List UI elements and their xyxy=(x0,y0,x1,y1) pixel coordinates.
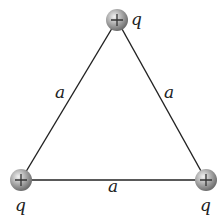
side-label-right: a xyxy=(164,82,174,102)
charge-bottom-right xyxy=(195,169,217,191)
diagram-canvas: q q q a a a xyxy=(0,0,222,217)
side-label-bottom: a xyxy=(108,176,118,196)
triangle-sides xyxy=(21,20,206,180)
side-left xyxy=(21,20,117,180)
charge-bottom-left xyxy=(10,169,32,191)
charge-top xyxy=(106,9,128,31)
side-right xyxy=(117,20,206,180)
charge-label-bottom-right: q xyxy=(200,195,211,215)
charge-triangle-diagram: q q q a a a xyxy=(0,0,222,217)
charge-label-bottom-left: q xyxy=(15,195,26,215)
charge-label-top: q xyxy=(131,9,142,29)
side-label-left: a xyxy=(55,82,65,102)
